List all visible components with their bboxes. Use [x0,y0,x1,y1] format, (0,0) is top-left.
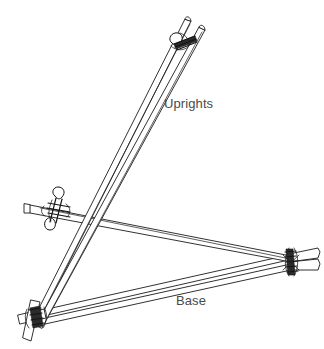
figure-svg [0,0,324,349]
upright-pole-left [31,17,191,326]
ledger-pole [24,204,291,262]
lashing-diagram: Uprights Base [0,0,324,349]
base-pole-front [36,262,300,326]
label-uprights: Uprights [164,97,213,110]
label-base: Base [176,294,206,307]
